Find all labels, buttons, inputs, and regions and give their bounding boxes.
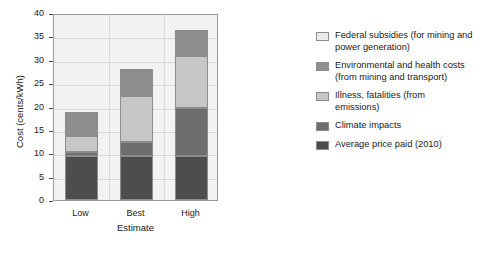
bar-segment [120, 71, 153, 96]
stacked-bar-chart: Cost (cents/kWh) Estimate Federal subsid… [0, 0, 483, 269]
legend-item: Climate impacts [316, 120, 480, 132]
y-axis-tick-mark [49, 108, 53, 109]
y-axis-tick-label: 0 [22, 196, 44, 205]
x-axis-tick-label: Best [106, 208, 166, 218]
legend-item-label: Climate impacts [335, 120, 401, 132]
bar-segment [120, 156, 153, 200]
x-axis-tick-label: Low [51, 208, 111, 218]
y-axis-tick-mark [49, 61, 53, 62]
bar-segment [175, 108, 208, 156]
y-axis-tick-label: 25 [22, 79, 44, 88]
bar-segment [175, 56, 208, 108]
legend-item-label: Federal subsidies (for mining andpower g… [335, 30, 472, 53]
y-axis-tick-label: 20 [22, 103, 44, 112]
y-axis-tick-mark [49, 14, 53, 15]
bar-best [120, 13, 153, 200]
bar-segment [65, 112, 98, 135]
y-axis-tick-label: 15 [22, 126, 44, 135]
legend-item: Average price paid (2010) [316, 139, 480, 151]
bar-segment [120, 96, 153, 141]
legend-swatch-icon [316, 92, 329, 101]
legend-swatch-icon [316, 122, 329, 131]
bar-segment [65, 152, 98, 156]
legend-swatch-icon [316, 141, 329, 150]
y-axis-tick-mark [49, 201, 53, 202]
bar-segment [120, 142, 153, 156]
y-axis-tick-mark [49, 178, 53, 179]
legend-item: Environmental and health costs(from mini… [316, 60, 480, 83]
legend-item: Illness, fatalities (fromemissions) [316, 90, 480, 113]
plot-area [53, 14, 218, 201]
legend-item-label: Illness, fatalities (fromemissions) [335, 90, 425, 113]
gridline-vertical [109, 15, 110, 200]
gridline-vertical [164, 15, 165, 200]
y-axis-tick-mark [49, 154, 53, 155]
legend-swatch-icon [316, 32, 329, 41]
x-axis-label: Estimate [51, 222, 221, 233]
y-axis-tick-label: 35 [22, 32, 44, 41]
chart-legend: Federal subsidies (for mining andpower g… [316, 30, 480, 157]
bar-low [65, 13, 98, 200]
bar-segment [65, 156, 98, 200]
bar-segment [175, 156, 208, 200]
bar-high [175, 13, 208, 200]
legend-item-label: Average price paid (2010) [335, 139, 442, 151]
legend-swatch-icon [316, 62, 329, 71]
y-axis-tick-label: 40 [22, 9, 44, 18]
y-axis-tick-label: 10 [22, 149, 44, 158]
y-axis-tick-mark [49, 131, 53, 132]
bar-segment [175, 30, 208, 32]
legend-item-label: Environmental and health costs(from mini… [335, 60, 465, 83]
y-axis-tick-mark [49, 84, 53, 85]
x-axis-tick-label: High [161, 208, 221, 218]
bar-segment [65, 136, 98, 152]
bar-segment [120, 69, 153, 71]
legend-item: Federal subsidies (for mining andpower g… [316, 30, 480, 53]
y-axis-tick-label: 5 [22, 173, 44, 182]
bar-segment [175, 32, 208, 56]
y-axis-tick-mark [49, 37, 53, 38]
y-axis-tick-label: 30 [22, 56, 44, 65]
